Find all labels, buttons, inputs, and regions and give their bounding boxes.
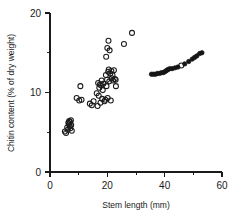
data-point-open [104,54,109,59]
data-point-open [113,84,118,89]
tick-labels-group: 020406001020 [30,8,228,191]
x-axis-title: Stem length (mm) [102,200,170,210]
data-point-open [95,104,100,109]
data-point-filled [200,51,204,55]
data-point-open [106,38,111,43]
chart-figure: 020406001020 Stem length (mm) Chitin con… [0,0,238,216]
y-tick-label: 20 [30,8,42,19]
x-tick-label: 40 [159,180,171,191]
data-point-filled [176,65,180,69]
y-axis-title: Chitin content (% of dry weight) [6,34,16,152]
ticks-group [45,13,222,177]
data-point-open [121,42,126,47]
y-tick-label: 10 [30,87,42,98]
y-tick-label: 0 [35,167,41,178]
x-tick-label: 0 [47,180,53,191]
data-point-open [78,84,83,89]
axes-group [50,13,222,172]
data-point-open [129,30,134,35]
data-point-filled [183,62,187,66]
scatter-plot-svg: 020406001020 Stem length (mm) Chitin con… [0,0,238,216]
x-tick-label: 20 [102,180,114,191]
x-tick-label: 60 [216,180,228,191]
data-points-group [62,30,204,135]
